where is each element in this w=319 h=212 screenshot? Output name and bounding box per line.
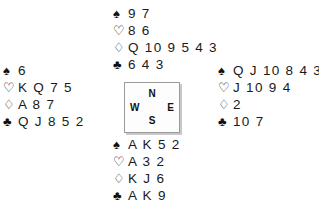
- hand-west-spades: 6: [18, 62, 27, 79]
- spade-icon: ♠: [218, 62, 233, 79]
- hand-south-diamonds: K J 6: [128, 170, 165, 187]
- hand-west-diamonds-row: ♢ A 8 7: [3, 96, 84, 113]
- hand-east-hearts-row: ♡ J 10 9 4: [218, 79, 319, 96]
- hand-west-clubs: Q J 8 5 2: [18, 113, 84, 130]
- hand-west-diamonds: A 8 7: [18, 96, 55, 113]
- hand-west-clubs-row: ♣ Q J 8 5 2: [3, 113, 84, 130]
- hand-south: ♠ A K 5 2 ♡ A 3 2 ♢ K J 6 ♣ A K 9: [113, 136, 181, 204]
- hand-north-diamonds-row: ♢ Q 10 9 5 4 3: [113, 39, 218, 56]
- heart-icon: ♡: [113, 22, 128, 39]
- hand-south-diamonds-row: ♢ K J 6: [113, 170, 181, 187]
- compass-south-label: S: [125, 116, 179, 126]
- heart-icon: ♡: [113, 153, 128, 170]
- hand-east-clubs: 10 7: [233, 113, 264, 130]
- hand-west-spades-row: ♠ 6: [3, 62, 84, 79]
- compass-east-label: E: [167, 103, 174, 113]
- hand-south-hearts-row: ♡ A 3 2: [113, 153, 181, 170]
- compass-north-label: N: [125, 89, 179, 99]
- hand-east-spades: Q J 10 8 4 3: [233, 62, 319, 79]
- spade-icon: ♠: [113, 136, 128, 153]
- club-icon: ♣: [113, 56, 128, 73]
- hand-west-hearts: K Q 7 5: [18, 79, 73, 96]
- compass-west-label: W: [130, 103, 139, 113]
- spade-icon: ♠: [3, 62, 18, 79]
- hand-north-hearts: 8 6: [128, 22, 151, 39]
- hand-south-clubs-row: ♣ A K 9: [113, 187, 181, 204]
- hand-south-spades-row: ♠ A K 5 2: [113, 136, 181, 153]
- bridge-deal-diagram: ♠ 9 7 ♡ 8 6 ♢ Q 10 9 5 4 3 ♣ 6 4 3 ♠ 6 ♡…: [0, 0, 319, 212]
- club-icon: ♣: [113, 187, 128, 204]
- diamond-icon: ♢: [113, 170, 128, 187]
- hand-east-diamonds-row: ♢ 2: [218, 96, 319, 113]
- club-icon: ♣: [218, 113, 233, 130]
- hand-north-clubs: 6 4 3: [128, 56, 165, 73]
- hand-east: ♠ Q J 10 8 4 3 ♡ J 10 9 4 ♢ 2 ♣ 10 7: [218, 62, 319, 130]
- hand-north-hearts-row: ♡ 8 6: [113, 22, 218, 39]
- hand-north-clubs-row: ♣ 6 4 3: [113, 56, 218, 73]
- heart-icon: ♡: [218, 79, 233, 96]
- hand-east-hearts: J 10 9 4: [233, 79, 291, 96]
- diamond-icon: ♢: [3, 96, 18, 113]
- hand-north-spades-row: ♠ 9 7: [113, 5, 218, 22]
- spade-icon: ♠: [113, 5, 128, 22]
- hand-south-spades: A K 5 2: [128, 136, 181, 153]
- hand-east-spades-row: ♠ Q J 10 8 4 3: [218, 62, 319, 79]
- hand-east-clubs-row: ♣ 10 7: [218, 113, 319, 130]
- hand-north-spades: 9 7: [128, 5, 151, 22]
- hand-east-diamonds: 2: [233, 96, 242, 113]
- club-icon: ♣: [3, 113, 18, 130]
- diamond-icon: ♢: [218, 96, 233, 113]
- hand-south-hearts: A 3 2: [128, 153, 165, 170]
- heart-icon: ♡: [3, 79, 18, 96]
- compass-box: N W E S: [124, 82, 180, 133]
- hand-west-hearts-row: ♡ K Q 7 5: [3, 79, 84, 96]
- hand-north: ♠ 9 7 ♡ 8 6 ♢ Q 10 9 5 4 3 ♣ 6 4 3: [113, 5, 218, 73]
- hand-west: ♠ 6 ♡ K Q 7 5 ♢ A 8 7 ♣ Q J 8 5 2: [3, 62, 84, 130]
- diamond-icon: ♢: [113, 39, 128, 56]
- hand-north-diamonds: Q 10 9 5 4 3: [128, 39, 218, 56]
- hand-south-clubs: A K 9: [128, 187, 167, 204]
